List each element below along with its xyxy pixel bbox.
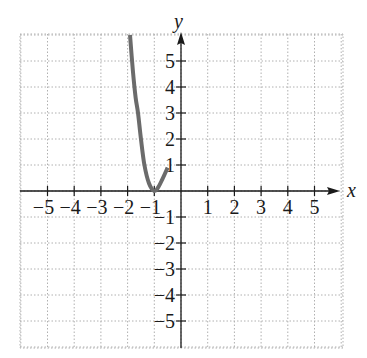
y-tick-label: 4 — [165, 76, 175, 98]
y-tick-label: −4 — [154, 284, 175, 306]
y-tick-label: −3 — [154, 258, 175, 280]
y-axis-label: y — [172, 10, 183, 33]
y-tick-label: −5 — [154, 310, 175, 332]
y-tick-label: −1 — [154, 206, 175, 228]
x-axis-label: x — [346, 179, 356, 201]
y-tick-label: 3 — [165, 102, 175, 124]
axes — [20, 32, 340, 348]
y-tick-label: 5 — [165, 50, 175, 72]
x-tick-label: 4 — [283, 196, 293, 218]
x-tick-label: 2 — [229, 196, 239, 218]
x-tick-label: 3 — [256, 196, 266, 218]
x-tick-label: 1 — [203, 196, 213, 218]
coordinate-plane: −5−4−3−2−112345−5−4−3−2−112345 x y — [0, 0, 367, 358]
y-tick-label: −2 — [154, 232, 175, 254]
x-tick-label: −3 — [86, 196, 107, 218]
x-tick-label: −4 — [60, 196, 81, 218]
x-tick-label: −5 — [33, 196, 54, 218]
x-tick-label: −2 — [113, 196, 134, 218]
y-tick-label: 2 — [165, 128, 175, 150]
x-tick-label: 5 — [310, 196, 320, 218]
